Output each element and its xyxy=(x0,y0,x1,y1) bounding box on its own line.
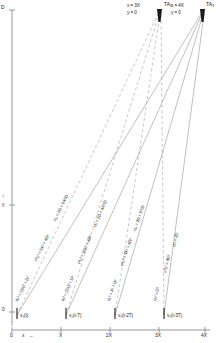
source-label-3X: v₀(t-3T) xyxy=(167,313,182,318)
y-axis-top-label: D xyxy=(1,5,4,11)
dashed-ray-bundle-TA2 xyxy=(17,14,164,315)
apex-TA2-coord-y: y = 0 xyxy=(127,10,137,15)
x-tick-label-0: 0 xyxy=(10,333,13,339)
dashed-ray-from-0 xyxy=(17,14,158,315)
diagram-canvas: D ↑ y 0 0 X 2X 3X 4X x ← v₀(t) v₀(t-T) v… xyxy=(0,0,216,343)
source-label-0: v₀(t) xyxy=(20,313,28,318)
y-axis-mid-label: y xyxy=(2,202,4,208)
apex-marker-TA2 xyxy=(157,9,162,22)
solid-ray-from-2X xyxy=(115,14,203,315)
apex-marker-TA3 xyxy=(200,9,205,22)
apex-TA2-coord-x: x = 3X xyxy=(127,3,140,8)
source-markers xyxy=(17,308,164,319)
solid-ray-from-3X xyxy=(164,14,204,315)
x-axis-name: x xyxy=(22,333,24,339)
dashed-ray-from-X xyxy=(66,14,159,315)
source-label-X: v₀(t-T) xyxy=(69,313,82,318)
x-tick-label-2X: 2X xyxy=(106,333,112,339)
y-axis-origin-label: 0 xyxy=(2,307,5,313)
solid-ray-from-0 xyxy=(17,14,201,315)
solid-ray-bundle-TA3 xyxy=(17,14,204,315)
apex-TA3-coord-x: x = 4X xyxy=(171,3,184,8)
x-tick-label-3X: 3X xyxy=(155,333,161,339)
apex-TA3-coord-y: y = 0 xyxy=(171,10,181,15)
dashed-ray-from-2X xyxy=(115,14,160,315)
source-label-2X: v₀(t-2T) xyxy=(118,313,133,318)
apex-markers xyxy=(157,9,205,22)
x-tick-label-4X: 4X xyxy=(201,333,207,339)
x-axis-arrow-icon: ← xyxy=(29,333,34,339)
solid-ray-from-X xyxy=(66,14,202,315)
apex-TA3-label: TA₃ xyxy=(206,2,214,8)
y-axis-arrow-icon: ↑ xyxy=(2,194,4,200)
x-tick-label-1X: X xyxy=(59,333,62,339)
